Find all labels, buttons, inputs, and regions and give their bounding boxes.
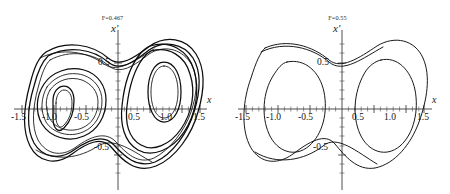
attractor-band-second (29, 44, 199, 164)
plot-canvas-left (0, 0, 225, 194)
limit-cycle-lower-connector (255, 142, 377, 164)
axes-right (238, 30, 432, 190)
plot-canvas-right (225, 0, 450, 194)
attractor-right-inner-loop (148, 62, 181, 122)
panel-left-chaotic: F=0.467 x' x -1.5 -1.0 -0.5 0.5 1.0 1.5 … (0, 0, 225, 194)
phase-portrait-figure: F=0.467 x' x -1.5 -1.0 -0.5 0.5 1.0 1.5 … (0, 0, 450, 194)
attractor-right-inner-loop-2 (151, 66, 178, 118)
panel-right-limit-cycle: F=0.55 x' x -1.5 -1.0 -0.5 0.5 1.0 1.5 0… (225, 0, 450, 194)
limit-cycle-trajectory-right (244, 40, 427, 168)
limit-cycle-outer-envelope (244, 40, 427, 168)
limit-cycle-right-loop (355, 59, 416, 152)
attractor-trajectory-left (25, 39, 203, 168)
limit-cycle-upper-connector (261, 46, 383, 66)
attractor-right-lobe (122, 44, 197, 153)
